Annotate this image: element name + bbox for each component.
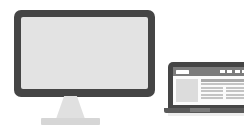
desktop-monitor — [14, 10, 155, 97]
content-line — [226, 87, 245, 89]
page-content-area — [173, 76, 244, 105]
content-heading — [201, 79, 244, 82]
brand-logo[interactable] — [176, 70, 189, 74]
illustration-canvas: Responsive devices illustration — [0, 0, 244, 137]
content-row-4 — [201, 97, 244, 99]
content-line — [201, 87, 223, 89]
primary-navigation — [220, 70, 245, 73]
content-line — [226, 90, 245, 92]
monitor-screen — [21, 17, 148, 89]
laptop-screen — [173, 67, 244, 105]
content-line — [201, 94, 223, 96]
laptop-lid — [168, 62, 244, 110]
content-line — [226, 94, 245, 96]
content-row-1 — [201, 87, 244, 89]
nav-item-2[interactable] — [227, 70, 232, 73]
nav-item-4[interactable] — [242, 70, 244, 73]
laptop-trackpad-notch — [190, 108, 210, 112]
content-subheading — [201, 83, 244, 85]
monitor-stand-base — [41, 118, 100, 125]
monitor-stand-neck — [56, 96, 85, 119]
content-row-3 — [201, 94, 244, 96]
illustration-title: Responsive devices illustration — [0, 21, 1, 22]
content-line — [201, 97, 223, 99]
monitor-bezel — [14, 10, 155, 97]
content-line — [201, 90, 223, 92]
page-header-bar — [173, 67, 244, 76]
nav-item-1[interactable] — [220, 70, 225, 73]
image-placeholder — [176, 79, 198, 102]
laptop-device — [168, 62, 244, 117]
nav-item-3[interactable] — [235, 70, 240, 73]
laptop-shadow — [168, 113, 244, 116]
text-content-column — [201, 79, 244, 105]
content-line — [226, 97, 245, 99]
content-row-2 — [201, 90, 244, 92]
